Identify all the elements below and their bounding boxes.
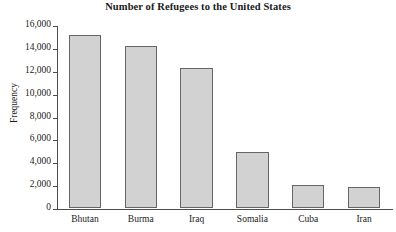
x-category-label: Iran [336,214,392,224]
y-tick-mark [53,95,57,96]
plot-area: 02,0004,0006,0008,00010,00012,00014,0001… [57,26,392,209]
y-tick-label: 10,000 [25,88,51,98]
y-axis-label: Frequency [9,63,19,143]
x-category-label: Bhutan [57,214,113,224]
y-tick-label: 0 [46,202,51,212]
y-tick-label: 12,000 [25,65,51,75]
x-category-label: Cuba [280,214,336,224]
y-tick-mark [53,49,57,50]
y-tick-label: 2,000 [30,179,51,189]
bar-cuba [292,185,324,208]
y-tick-mark [53,186,57,187]
y-tick-mark [53,140,57,141]
bar-somalia [236,152,268,208]
x-category-label: Somalia [225,214,281,224]
x-category-label: Burma [113,214,169,224]
bar-iran [348,187,380,208]
bar-bhutan [69,35,101,208]
chart-title: Number of Refugees to the United States [0,1,396,12]
y-tick-label: 6,000 [30,133,51,143]
x-axis-line [57,209,393,210]
bar-iraq [180,68,212,208]
x-category-label: Iraq [169,214,225,224]
y-tick-mark [53,26,57,27]
y-tick-mark [53,118,57,119]
y-tick-mark [53,163,57,164]
y-tick-label: 8,000 [30,111,51,121]
bar-burma [125,46,157,208]
y-tick-label: 4,000 [30,156,51,166]
y-tick-label: 14,000 [25,42,51,52]
bar-chart: Number of Refugees to the United States … [0,0,396,232]
y-axis-line [57,26,58,210]
y-tick-mark [53,72,57,73]
y-tick-mark [53,209,57,210]
y-tick-label: 16,000 [25,19,51,29]
